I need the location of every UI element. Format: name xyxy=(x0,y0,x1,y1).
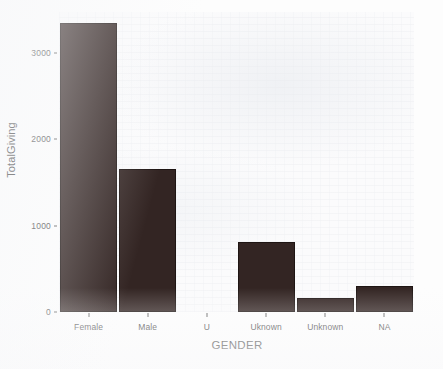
x-tick-label-unknown: Unknown xyxy=(307,322,343,332)
x-tick-label-female: Female xyxy=(74,322,103,332)
x-tick-mark-female xyxy=(88,313,89,317)
y-tick-label-2000: 2000 xyxy=(31,134,51,144)
bar-unknown[interactable] xyxy=(297,298,354,312)
y-tick-mark-3000 xyxy=(54,53,57,54)
x-tick-mark-unknown xyxy=(325,313,326,317)
x-tick-label-na: NA xyxy=(378,322,390,332)
x-tick-mark-male xyxy=(147,313,148,317)
x-tick-label-male: Male xyxy=(138,322,157,332)
y-tick-mark-2000 xyxy=(54,139,57,140)
x-tick-label-u: U xyxy=(204,322,210,332)
y-tick-label-0: 0 xyxy=(46,307,51,317)
y-tick-mark-0 xyxy=(54,312,57,313)
bar-female[interactable] xyxy=(60,23,117,312)
y-axis: 3000 2000 1000 0 TotalGiving xyxy=(0,0,59,369)
x-tick-mark-uknown xyxy=(266,313,267,317)
x-axis-title: GENDER xyxy=(211,339,262,351)
y-tick-label-3000: 3000 xyxy=(31,48,51,58)
x-tick-mark-na xyxy=(384,313,385,317)
chart-page: 3000 2000 1000 0 TotalGiving FemaleMaleU… xyxy=(0,0,443,369)
x-tick-label-uknown: Uknown xyxy=(250,322,281,332)
bar-na[interactable] xyxy=(356,286,413,312)
y-tick-mark-1000 xyxy=(54,226,57,227)
bar-male[interactable] xyxy=(119,169,176,312)
x-tick-mark-u xyxy=(206,313,207,317)
plot-panel xyxy=(59,12,414,312)
y-axis-title: TotalGiving xyxy=(5,122,17,178)
y-tick-label-1000: 1000 xyxy=(31,221,51,231)
bar-uknown[interactable] xyxy=(238,242,295,312)
